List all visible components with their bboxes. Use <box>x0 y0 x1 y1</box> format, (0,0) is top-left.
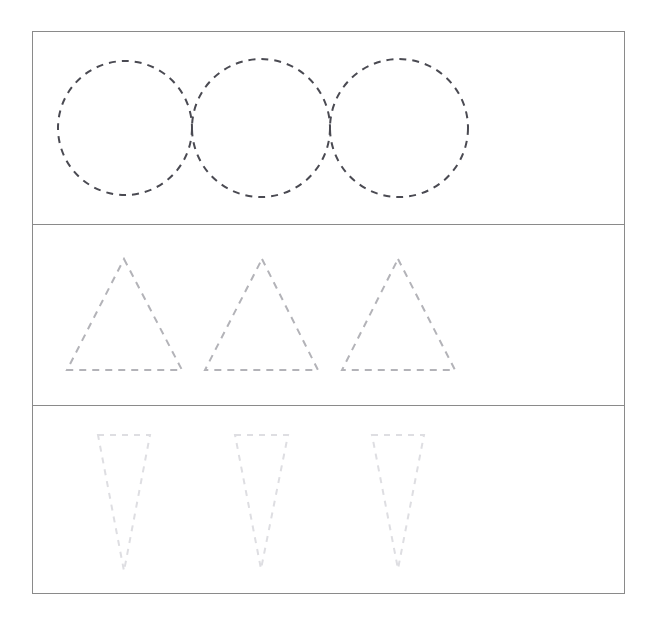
row-circles <box>33 32 624 224</box>
row-inverted-triangles <box>33 406 624 594</box>
row-triangles <box>33 225 624 405</box>
tracing-worksheet <box>0 0 658 617</box>
